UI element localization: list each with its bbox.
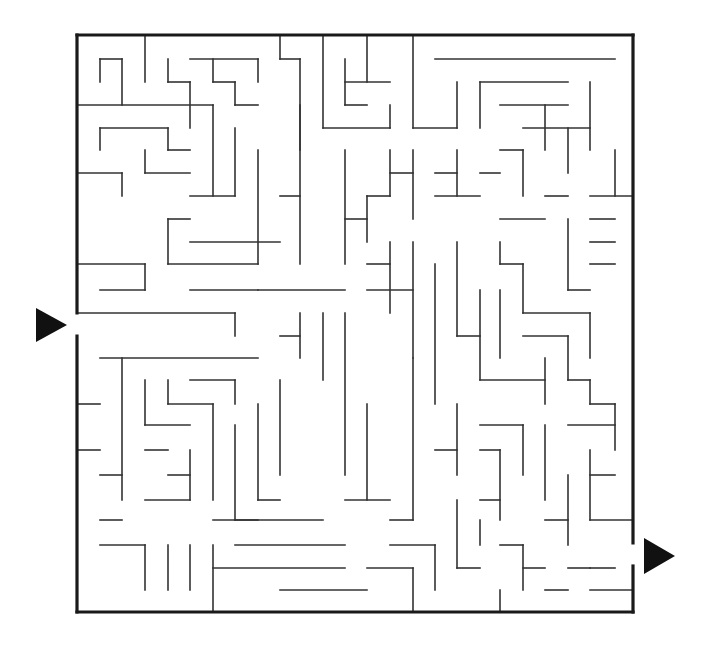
start-arrow-icon	[36, 308, 67, 342]
maze-board	[0, 0, 711, 652]
finish-arrow-icon	[644, 538, 675, 574]
maze-outer-frame	[77, 35, 633, 612]
maze-interior-walls	[77, 35, 633, 612]
